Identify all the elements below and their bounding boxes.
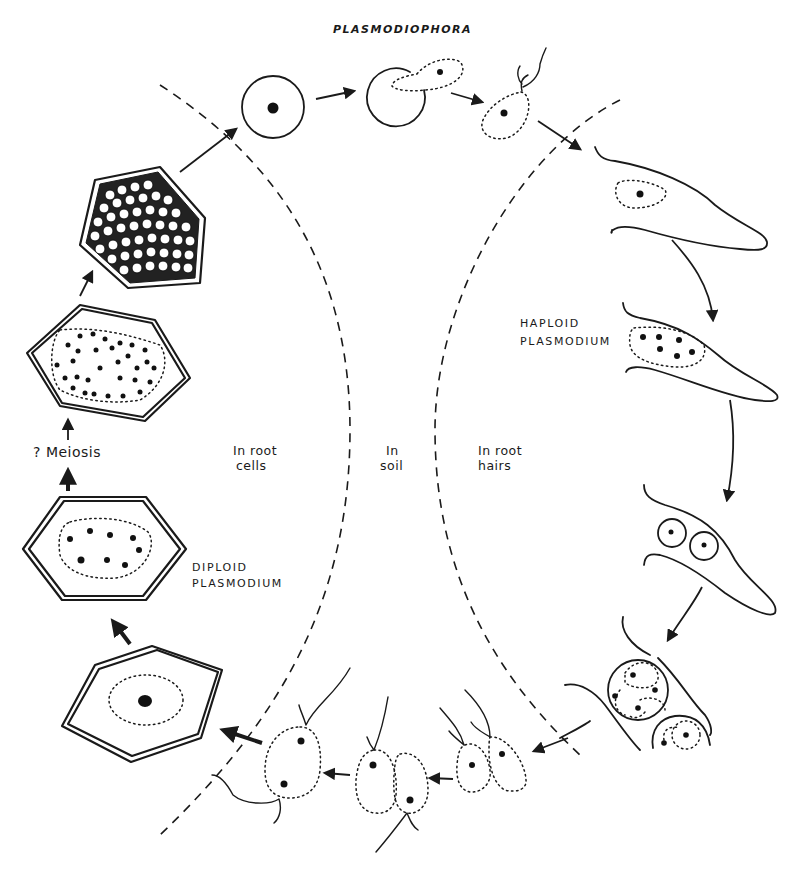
root-cell-diploid-plasmodium [23,497,186,600]
arrow-10 [226,731,262,743]
arrow-5 [727,400,733,500]
svg-text:hairs: hairs [478,458,511,473]
svg-text:PLASMODIUM: PLASMODIUM [192,577,283,590]
figure-title: PLASMODIOPHORA [333,23,472,36]
arrow-14 [80,272,92,296]
svg-text:In root: In root [478,443,522,458]
region-label-soil: In soil [380,443,403,473]
arrow-2 [451,93,482,102]
arrow-7 [534,738,568,751]
arrow-8 [430,778,453,779]
root-cell-filled-spores [80,167,205,288]
germinating-spore [367,59,463,126]
boundary-soil-root-hairs [435,100,620,755]
arrow-4 [672,240,713,320]
biflagellate-zygote [212,668,350,823]
svg-text:PLASMODIUM: PLASMODIUM [520,335,611,348]
plasmodiophora-life-cycle-diagram: PLASMODIOPHORA In root cells In soil In … [0,0,798,874]
root-hair-with-zoospore [595,147,767,250]
label-haploid-plasmodium: HAPLOID PLASMODIUM [520,317,611,348]
zoosporangia-cluster [560,617,711,750]
biflagellate-zoospore [482,48,546,139]
svg-text:cells: cells [236,458,267,473]
nuclei-cluster [55,332,157,399]
arrow-6 [668,587,702,640]
arrow-1 [316,91,354,99]
svg-text:HAPLOID: HAPLOID [520,317,580,330]
root-cell-uninucleate [62,646,222,762]
arrow-3 [538,121,580,149]
svg-text:In root: In root [233,443,277,458]
root-hair-zoosporangia [644,485,776,614]
fusing-gametes [356,697,428,852]
arrow-9 [325,773,350,775]
svg-text:DIPLOID: DIPLOID [192,561,248,574]
svg-text:In: In [386,443,399,458]
arrow-11 [115,624,130,644]
resting-spore [242,76,304,138]
root-cell-multinucleate-plasmodium [27,305,190,421]
released-zoospores [440,690,526,792]
region-label-root-cells: In root cells [233,443,277,473]
svg-text:soil: soil [380,458,403,473]
label-diploid-plasmodium: DIPLOID PLASMODIUM [192,561,283,590]
region-label-root-hairs: In root hairs [478,443,522,473]
arrow-15 [180,129,236,172]
root-hair-haploid-plasmodium [623,303,778,401]
label-meiosis: ? Meiosis [33,444,101,460]
